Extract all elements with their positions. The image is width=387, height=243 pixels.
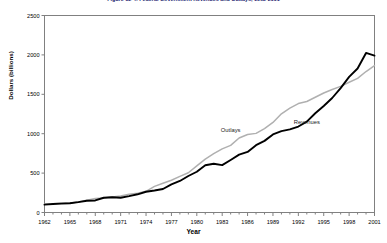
x-tick-label: 2001 (368, 219, 380, 225)
x-axis-ticks (45, 213, 375, 217)
x-tick-label: 1980 (191, 219, 203, 225)
figure-container: Figure 12-4: Federal Government Revenues… (0, 0, 387, 243)
series-label-revenues: Revenues (294, 119, 320, 125)
x-tick-label: 1974 (140, 219, 152, 225)
y-axis-tick-labels: 05001000150020002500 (27, 13, 39, 216)
x-tick-label: 1995 (318, 219, 330, 225)
x-tick-label: 1965 (64, 219, 76, 225)
x-tick-label: 1962 (38, 219, 50, 225)
x-tick-label: 1977 (165, 219, 177, 225)
x-axis-label: Year (0, 228, 387, 235)
x-tick-label: 1992 (292, 219, 304, 225)
y-tick-label: 1000 (27, 131, 39, 137)
x-tick-label: 1971 (114, 219, 126, 225)
x-axis-tick-labels: 1962196519681971197419771980198319861989… (38, 219, 380, 225)
y-tick-label: 2000 (27, 52, 39, 58)
x-tick-label: 1989 (267, 219, 279, 225)
chart-plot-area: 05001000150020002500 1962196519681971197… (0, 0, 387, 243)
plot-frame (45, 16, 375, 213)
series-label-outlays: Outlays (221, 127, 241, 133)
y-tick-label: 1500 (27, 91, 39, 97)
x-tick-label: 1986 (241, 219, 253, 225)
x-tick-label: 1998 (343, 219, 355, 225)
x-tick-label: 1983 (216, 219, 228, 225)
x-tick-label: 1968 (89, 219, 101, 225)
y-tick-label: 2500 (27, 13, 39, 19)
y-tick-label: 0 (36, 210, 39, 216)
y-tick-label: 500 (30, 170, 39, 176)
